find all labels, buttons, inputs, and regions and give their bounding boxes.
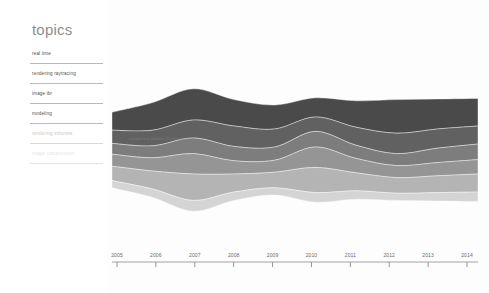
topic-label: image compression [30,151,74,156]
topic-item-real-time[interactable]: real time [30,44,103,64]
axis-tick-label: 2010 [306,252,318,258]
axis-tick-label: 2012 [383,252,395,258]
axis-tick-label: 2008 [228,252,240,258]
topic-item-rendering-raytracing[interactable]: rendering raytracing [30,64,103,84]
band-inline-label: rendering global illumination [129,136,189,141]
topic-item-image-compression[interactable]: image compression [30,144,103,164]
topics-sidebar: topics real time rendering raytracing im… [0,0,107,293]
topic-item-image-ibr[interactable]: image ibr [30,84,103,104]
topic-label: rendering raytracing [30,71,76,76]
page-title: topics [32,21,72,38]
time-axis [107,0,489,293]
axis-tick-label: 2006 [150,252,162,258]
axis-tick-label: 2013 [422,252,434,258]
streamgraph-visualization: topics real time rendering raytracing im… [0,0,489,293]
topic-label: real time [30,51,51,56]
axis-tick-label: 2014 [461,252,473,258]
topic-label: image ibr [30,91,52,96]
axis-tick-label: 2009 [267,252,279,258]
topic-item-modeling[interactable]: modeling [30,104,103,124]
topic-item-rendering-volumes[interactable]: rendering volumes [30,124,103,144]
topic-filter-list: real time rendering raytracing image ibr… [30,44,103,164]
topic-label: rendering volumes [30,131,72,136]
axis-tick-label: 2005 [111,252,123,258]
axis-tick-label: 2011 [345,252,356,258]
chart-area: 2005200620072008200920102011201220132014… [107,0,489,293]
axis-tick-label: 2007 [189,252,201,258]
topic-label: modeling [30,111,52,116]
